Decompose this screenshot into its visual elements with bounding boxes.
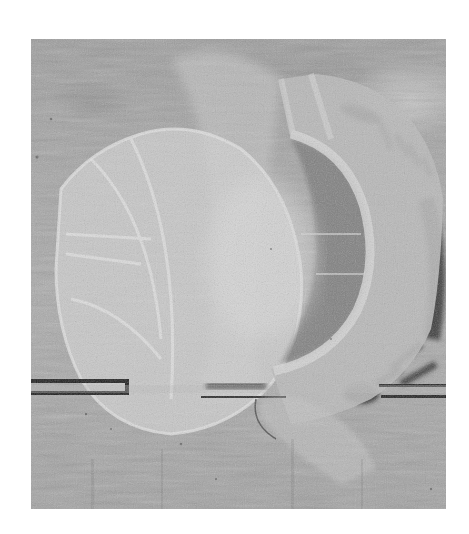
photograph	[31, 39, 446, 509]
photo-scene	[31, 39, 446, 509]
photo-grain	[31, 39, 446, 509]
